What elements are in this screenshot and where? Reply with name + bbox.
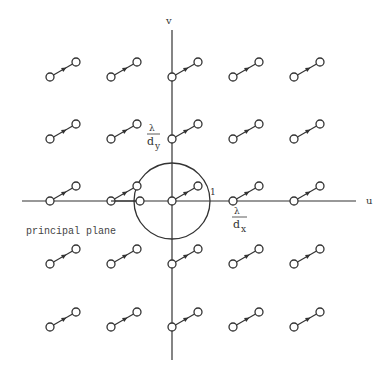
lattice-vector [229,58,263,81]
u-label: u [366,195,373,206]
lambda-dy-numerator: λ [149,123,155,133]
lattice-point [290,135,298,143]
lattice-point [168,73,176,81]
scanned-point [255,120,263,128]
lattice-vector [46,120,80,143]
scanned-point [133,308,141,316]
scanned-point [255,182,263,190]
scanned-point [194,120,202,128]
lattice-vector [168,245,202,268]
scanned-point [133,120,141,128]
lattice-vector [229,245,263,268]
scanned-point [133,245,141,253]
scanned-point [194,182,202,190]
diagram-canvas: λ v u λ d y λ d x 1 principal plane [0,0,390,371]
lattice-vector [290,308,324,331]
lattice-point [107,135,115,143]
principal-plane-label: principal plane [26,226,116,237]
scanned-point [72,182,80,190]
lattice-vector [107,58,141,81]
lattice-vector [290,245,324,268]
lattice-point [107,73,115,81]
lattice-point [168,197,176,205]
lattice-vector [46,308,80,331]
lattice-vector [168,58,202,81]
unit-radius-label: 1 [210,187,216,197]
projected-point [136,197,144,205]
lattice-point [46,73,54,81]
lattice-points [46,58,324,331]
lattice-point [290,323,298,331]
lattice-point [290,73,298,81]
scanned-point [255,245,263,253]
lattice-point [229,197,237,205]
scanned-point [316,308,324,316]
lattice-vector [229,308,263,331]
lattice-point [46,135,54,143]
lattice-vector [290,120,324,143]
lattice-point [229,73,237,81]
scanned-point [194,58,202,66]
scanned-point [316,58,324,66]
lattice-vector [46,245,80,268]
lattice-point [229,323,237,331]
scanned-point [255,308,263,316]
lambda-dx-numerator: λ [234,206,240,216]
lattice-vector [290,58,324,81]
scanned-point [194,308,202,316]
lattice-point [168,260,176,268]
scanned-point [255,58,263,66]
lambda-dx-denominator: d [233,218,240,231]
v-label: v [165,15,172,26]
scanned-point [194,245,202,253]
scanned-point [133,58,141,66]
lambda-dy-denominator: d [147,135,154,148]
scanned-point [133,182,141,190]
lattice-point [290,260,298,268]
lattice-point [46,260,54,268]
lattice-vector [229,120,263,143]
lattice-vector [168,120,202,143]
scanned-point [316,245,324,253]
scanned-point [72,245,80,253]
lambda-dx-subscript: x [241,224,246,234]
scanned-point [316,182,324,190]
lambda-dy-subscript: y [154,141,161,151]
lattice-point [229,260,237,268]
lattice-point [290,197,298,205]
lattice-vector [107,120,141,143]
scanned-point [72,120,80,128]
lattice-vector [107,308,141,331]
lattice-vector [46,58,80,81]
lattice-point [168,135,176,143]
lattice-point [107,323,115,331]
scanned-point [72,308,80,316]
lattice-vector [107,245,141,268]
scanned-point [316,120,324,128]
lattice-vector [168,308,202,331]
lattice-point [107,260,115,268]
lattice-point [229,135,237,143]
lattice-point [46,323,54,331]
scanned-point [72,58,80,66]
lattice-point [168,323,176,331]
lattice-point [46,197,54,205]
